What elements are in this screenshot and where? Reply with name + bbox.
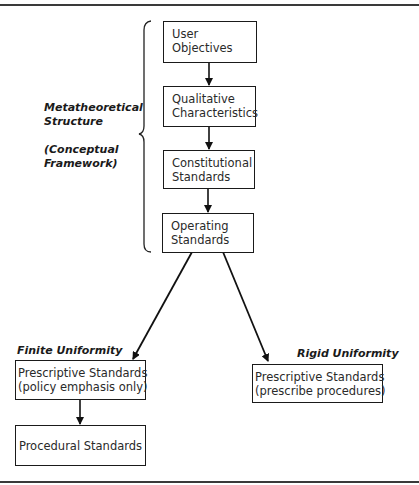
node-text: Standards [171, 233, 253, 247]
node-text: Operating [171, 219, 253, 233]
node-text: User [172, 27, 256, 41]
node-text: Prescriptive Standards [18, 366, 143, 380]
node-text: Constitutional [172, 156, 254, 170]
node-text: Objectives [172, 41, 256, 55]
node-user-objectives: User Objectives [163, 21, 257, 63]
arrow-operating-to-finite [133, 252, 192, 359]
node-text: Procedural Standards [19, 439, 142, 453]
conceptual-framework-label: (Conceptual Framework) [44, 143, 119, 171]
arrow-operating-to-rigid [223, 252, 268, 361]
label-line: Framework) [44, 157, 119, 171]
rigid-uniformity-label: Rigid Uniformity [297, 347, 399, 361]
node-text: (prescribe procedures) [255, 384, 380, 398]
brace-icon [139, 21, 151, 252]
node-constitutional-standards: Constitutional Standards [163, 150, 255, 189]
metatheoretical-structure-label: Metatheoretical Structure [44, 101, 143, 129]
node-text: Standards [172, 170, 254, 184]
node-prescriptive-finite: Prescriptive Standards (policy emphasis … [15, 360, 146, 400]
node-text: Characteristics [172, 106, 255, 120]
node-text: Prescriptive Standards [255, 370, 380, 384]
label-line: Structure [44, 115, 143, 129]
node-qualitative-characteristics: Qualitative Characteristics [163, 86, 256, 127]
node-procedural-standards: Procedural Standards [15, 425, 146, 466]
node-text: Qualitative [172, 92, 255, 106]
finite-uniformity-label: Finite Uniformity [17, 344, 122, 358]
node-text: (policy emphasis only) [18, 380, 143, 394]
node-prescriptive-rigid: Prescriptive Standards (prescribe proced… [252, 364, 383, 403]
label-line: Metatheoretical [44, 101, 143, 115]
label-line: (Conceptual [44, 143, 119, 157]
node-operating-standards: Operating Standards [162, 213, 254, 253]
